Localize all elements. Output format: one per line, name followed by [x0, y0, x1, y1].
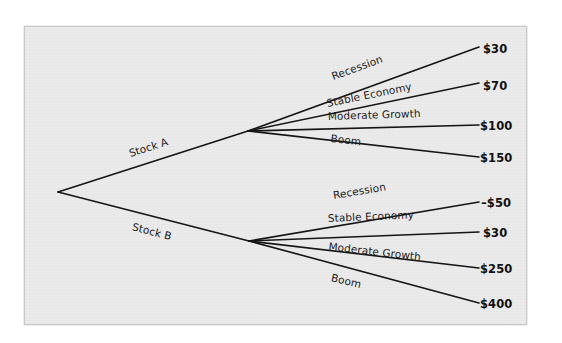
- screenshot-root: Stock A Stock B Recession Stable Economy…: [0, 0, 562, 343]
- payoff-b-recession: –$50: [481, 196, 511, 210]
- decision-tree-panel: Stock A Stock B Recession Stable Economy…: [24, 26, 527, 325]
- payoff-b-boom: $400: [480, 297, 512, 311]
- payoff-b-stable-economy: $30: [483, 226, 507, 240]
- payoff-a-boom: $150: [480, 151, 512, 165]
- branch-a-boom: [248, 131, 479, 157]
- payoff-a-stable-economy: $70: [483, 79, 507, 93]
- decision-tree-svg: [25, 27, 528, 326]
- payoff-b-moderate-growth: $250: [480, 262, 512, 276]
- branch-b-stable-economy: [249, 232, 479, 241]
- payoff-a-moderate-growth: $100: [480, 119, 512, 133]
- payoff-a-recession: $30: [483, 42, 507, 56]
- branch-a-moderate-growth: [248, 125, 479, 131]
